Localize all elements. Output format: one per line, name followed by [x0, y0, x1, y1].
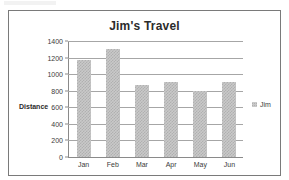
legend-label-jim: Jim [260, 101, 271, 108]
chart-title: Jim's Travel [9, 19, 280, 33]
y-tick-label: 1400 [47, 38, 63, 45]
y-tick-mark [65, 123, 68, 124]
x-axis-labels: JanFebMarAprMayJun [69, 161, 244, 168]
x-tick-label-feb: Feb [98, 161, 127, 168]
legend-swatch-jim [252, 102, 257, 107]
bar-slot [214, 41, 243, 157]
bar-slot [69, 41, 98, 157]
bar-mar[interactable] [135, 85, 149, 158]
bars-layer [69, 41, 243, 157]
bar-apr[interactable] [164, 82, 178, 157]
y-tick-mark [65, 57, 68, 58]
top-edge-artifact [4, 1, 56, 5]
y-tick-label: 400 [51, 120, 63, 127]
gridline: 0 [68, 157, 243, 158]
bar-feb[interactable] [106, 49, 120, 157]
y-tick-label: 0 [59, 154, 63, 161]
bar-jun[interactable] [222, 82, 236, 157]
x-tick-label-mar: Mar [127, 161, 156, 168]
y-tick-label: 600 [51, 104, 63, 111]
x-tick-label-apr: Apr [157, 161, 186, 168]
y-tick-mark [65, 74, 68, 75]
y-tick-label: 200 [51, 137, 63, 144]
x-tick-label-jun: Jun [215, 161, 244, 168]
y-tick-mark [65, 107, 68, 108]
bar-slot [127, 41, 156, 157]
bar-may[interactable] [193, 91, 207, 157]
y-tick-mark [65, 140, 68, 141]
y-tick-label: 1200 [47, 54, 63, 61]
x-tick-label-may: May [186, 161, 215, 168]
plot-area: 1400120010008006004002000 [68, 41, 243, 157]
bar-slot [185, 41, 214, 157]
x-tick-label-jan: Jan [69, 161, 98, 168]
chart-frame: Jim's Travel Distance 140012001000800600… [8, 10, 281, 176]
y-tick-label: 800 [51, 87, 63, 94]
bar-slot [156, 41, 185, 157]
bar-slot [98, 41, 127, 157]
y-tick-mark [65, 157, 68, 158]
y-tick-mark [65, 90, 68, 91]
y-axis-title: Distance [19, 103, 48, 110]
bar-jan[interactable] [77, 60, 91, 157]
chart-legend: Jim [252, 101, 271, 108]
y-tick-label: 1000 [47, 71, 63, 78]
y-tick-mark [65, 41, 68, 42]
